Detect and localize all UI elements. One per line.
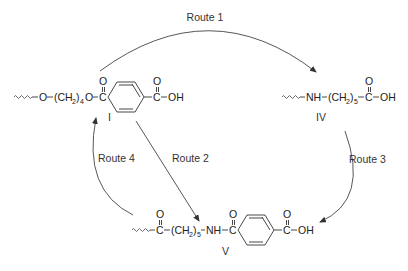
compound-IV: NH (CH 2 ) 5 C O OH IV	[282, 75, 396, 123]
svg-text:O: O	[229, 208, 237, 220]
svg-text:(CH: (CH	[54, 91, 73, 103]
polymer-chain-wavy-icon	[282, 96, 300, 99]
svg-text:OH: OH	[380, 91, 396, 103]
svg-text:O: O	[99, 75, 107, 87]
svg-text:O: O	[156, 208, 164, 220]
svg-text:4: 4	[80, 98, 84, 105]
svg-text:O: O	[153, 75, 161, 87]
svg-text:C: C	[156, 224, 164, 236]
svg-text:O: O	[365, 75, 373, 87]
benzene-ring	[238, 215, 274, 245]
svg-text:5: 5	[354, 98, 358, 105]
benzene-ring	[108, 82, 144, 112]
polymer-chain-wavy-icon	[132, 229, 150, 232]
svg-text:5: 5	[197, 231, 201, 238]
svg-text:C: C	[365, 91, 373, 103]
compound-I-label: I	[108, 111, 111, 123]
svg-text:O: O	[39, 91, 47, 103]
svg-text:NH: NH	[206, 224, 221, 236]
route-3-arrow: Route 3	[320, 131, 386, 222]
svg-text:OH: OH	[298, 224, 314, 236]
svg-text:): )	[193, 224, 197, 236]
svg-text:NH: NH	[306, 91, 321, 103]
route-1-arrow: Route 1	[100, 11, 316, 72]
compound-V: C O (CH 2 ) 5 NH C O C O OH V	[132, 208, 314, 257]
route-4-arrow: Route 4	[93, 118, 135, 215]
route-4-label: Route 4	[98, 152, 135, 164]
svg-text:O: O	[283, 208, 291, 220]
svg-text:): )	[350, 91, 354, 103]
svg-text:): )	[76, 91, 80, 103]
svg-text:O: O	[85, 91, 93, 103]
svg-text:(CH: (CH	[328, 91, 347, 103]
svg-text:OH: OH	[168, 91, 184, 103]
compound-V-label: V	[222, 245, 229, 257]
compound-I: O (CH 2 ) 4 O C O C O OH I	[14, 75, 184, 123]
svg-text:C: C	[283, 224, 291, 236]
svg-text:C: C	[153, 91, 161, 103]
reaction-scheme: Route 1 Route 2 Route 3 Route 4 O (CH 2 …	[0, 0, 408, 271]
svg-text:C: C	[99, 91, 107, 103]
route-2-arrow: Route 2	[136, 121, 209, 221]
svg-text:(CH: (CH	[171, 224, 190, 236]
svg-text:C: C	[229, 224, 237, 236]
route-1-label: Route 1	[187, 11, 224, 23]
route-2-label: Route 2	[172, 152, 209, 164]
compound-IV-label: IV	[316, 111, 326, 123]
polymer-chain-wavy-icon	[14, 96, 32, 99]
route-3-label: Route 3	[349, 153, 386, 165]
